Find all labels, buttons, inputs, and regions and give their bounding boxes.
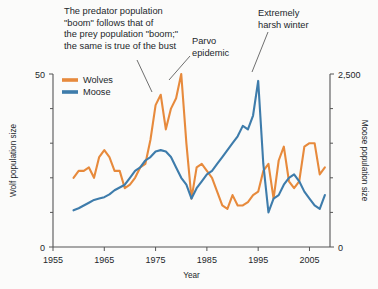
- y-tick-label-left-max: 50: [35, 70, 45, 80]
- series-line-moose: [74, 81, 325, 212]
- x-tick-label: 1975: [146, 255, 166, 265]
- annotation-boom-bust-line: the same is true of the bust: [64, 41, 177, 51]
- annotation-boom-bust-leader: [137, 60, 152, 92]
- y-tick-label-left-min: 0: [40, 243, 45, 253]
- x-tick-label: 1955: [43, 255, 63, 265]
- y-tick-label-right-min: 0: [338, 243, 343, 253]
- legend-label-moose: Moose: [83, 87, 111, 97]
- y-axis-title-left: Wolf population size: [9, 123, 18, 197]
- predator-prey-line-chart: 5002,5000195519651975198519952005YearWol…: [0, 0, 378, 289]
- x-tick-label: 1985: [197, 255, 217, 265]
- x-axis-title: Year: [183, 271, 200, 280]
- y-tick-label-right-max: 2,500: [338, 70, 361, 80]
- annotation-harsh-winter-leader: [252, 32, 268, 72]
- annotation-harsh-winter-line: Extremely: [258, 8, 300, 18]
- x-tick-label: 1995: [248, 255, 268, 265]
- annotation-parvo-leader: [169, 56, 190, 80]
- annotation-boom-bust-line: The predator population: [64, 6, 163, 16]
- annotation-boom-bust-line: "boom" follows that of: [64, 18, 154, 28]
- chart-figure: 5002,5000195519651975198519952005YearWol…: [0, 0, 378, 289]
- annotation-parvo-line: epidemic: [192, 48, 230, 58]
- x-tick-label: 1965: [94, 255, 114, 265]
- annotation-boom-bust-line: the prey population "boom;": [64, 29, 178, 39]
- legend-label-wolves: Wolves: [83, 75, 113, 85]
- x-tick-label: 2005: [299, 255, 319, 265]
- y-axis-title-right: Moose population size: [360, 120, 369, 202]
- annotation-parvo-line: Parvo: [192, 36, 216, 46]
- series-line-wolves: [74, 74, 325, 209]
- annotation-harsh-winter-line: harsh winter: [258, 20, 309, 30]
